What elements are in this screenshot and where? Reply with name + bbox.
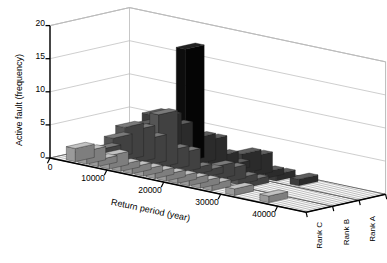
z-tick-label-rank-a: Rank A bbox=[368, 215, 377, 241]
x-tick-label-10000: 10000 bbox=[81, 173, 105, 183]
x-tick-label-40000: 40000 bbox=[252, 209, 276, 219]
x-tick-label-0: 0 bbox=[48, 162, 53, 172]
chart-text-layer: Active fault (frequency) 20 15 10 5 0 0 … bbox=[0, 0, 387, 263]
chart-root: Active fault (frequency) 20 15 10 5 0 0 … bbox=[0, 0, 387, 263]
x-tick-label-30000: 30000 bbox=[195, 197, 219, 207]
y-tick-label-10: 10 bbox=[36, 84, 46, 94]
y-tick-label-20: 20 bbox=[36, 18, 46, 28]
x-axis-title: Return period (year) bbox=[110, 197, 191, 223]
z-tick-label-rank-b: Rank B bbox=[342, 219, 351, 245]
z-tick-label-rank-c: Rank C bbox=[315, 222, 324, 249]
y-tick-label-0: 0 bbox=[40, 150, 45, 160]
x-tick-label-20000: 20000 bbox=[138, 185, 162, 195]
y-tick-label-15: 15 bbox=[36, 51, 46, 61]
y-tick-label-5: 5 bbox=[40, 117, 45, 127]
y-axis-title: Active fault (frequency) bbox=[14, 54, 24, 146]
